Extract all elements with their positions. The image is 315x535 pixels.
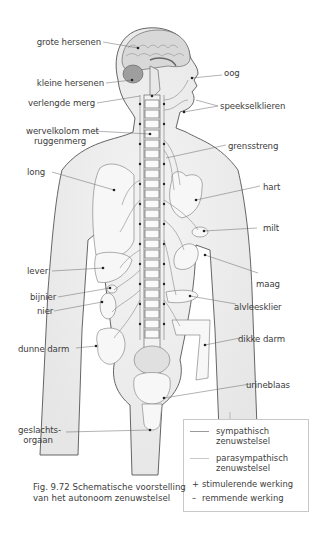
label-wervelkolom: wervelkolom met ruggenmerg: [26, 126, 94, 146]
legend-text: sympathisch: [216, 426, 269, 436]
label-lever: lever: [27, 266, 48, 276]
label-hart: hart: [263, 182, 280, 192]
label-grensstreng: grensstreng: [228, 141, 278, 151]
label-urineblaas: urineblaas: [246, 380, 290, 390]
label-geslachtsorgaan: geslachts- orgaan: [18, 425, 58, 445]
label-bijnier: bijnier: [30, 292, 56, 302]
legend-text: parasympathisch: [216, 453, 288, 463]
label-wervelkolom-line2: ruggenmerg: [26, 136, 94, 146]
label-nier: nier: [37, 306, 53, 316]
plus-icon: +: [192, 480, 199, 490]
legend-text: remmende werking: [202, 494, 284, 504]
legend-text: stimulerende werking: [202, 480, 293, 490]
label-maag: maag: [256, 279, 280, 289]
label-kleine-hersenen: kleine hersenen: [37, 78, 104, 88]
parasympathetic-line-icon: [190, 458, 209, 459]
label-milt: milt: [263, 223, 279, 233]
caption-line2: van het autonoom zenuwstelsel: [33, 493, 186, 504]
pelvis: [134, 346, 170, 374]
label-long: long: [27, 167, 45, 177]
sympathetic-line-icon: [190, 431, 209, 432]
genital: [142, 404, 162, 430]
label-geslachtsorgaan-line2: orgaan: [18, 435, 58, 445]
label-grote-hersenen: grote hersenen: [37, 37, 101, 47]
label-speekselklieren: speekselklieren: [220, 101, 285, 111]
legend-text: zenuwstelsel: [216, 436, 270, 446]
label-verlengde-merg: verlengde merg: [28, 98, 95, 108]
label-alvleesklier: alvleesklier: [234, 302, 282, 312]
lung-left: [93, 164, 134, 258]
label-geslachtsorgaan-line1: geslachts-: [18, 425, 58, 435]
legend: sympathisch zenuwstelsel parasympathisch…: [183, 419, 309, 512]
spleen: [192, 227, 208, 237]
label-oog: oog: [224, 68, 240, 78]
legend-text: zenuwstelsel: [216, 463, 270, 473]
kidney: [100, 293, 116, 319]
label-wervelkolom-line1: wervelkolom met: [26, 126, 94, 136]
minus-icon: –: [192, 494, 196, 504]
label-dikke-darm: dikke darm: [238, 334, 285, 344]
label-dunne-darm: dunne darm: [18, 344, 69, 354]
figure-caption: Fig. 9.72 Schematische voorstelling van …: [33, 482, 186, 503]
caption-line1: Fig. 9.72 Schematische voorstelling: [33, 482, 186, 493]
